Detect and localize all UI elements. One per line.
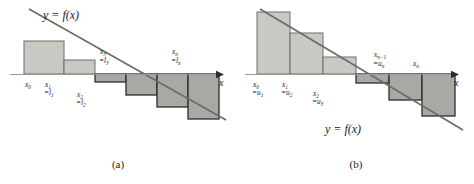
svg-text:=l1: =l1 <box>44 88 54 98</box>
tick-label-a-x3: x3 =l3 <box>99 47 109 66</box>
bar-a-3 <box>95 74 126 82</box>
bars-above-axis-a <box>24 41 95 74</box>
svg-text:=un: =un <box>373 59 385 69</box>
svg-text:=u3: =u3 <box>312 97 324 107</box>
bar-b-3 <box>323 57 356 74</box>
bar-b-2 <box>290 33 323 74</box>
bar-b-6 <box>422 74 455 116</box>
tick-label-a-x2: x2 =l2 <box>76 90 86 108</box>
function-label-a: y = f(x) <box>42 8 79 22</box>
bar-a-4 <box>126 74 157 95</box>
panel-b: y = f(x) x x0 =u1 x1 =u2 <box>237 0 474 160</box>
tick-label-b-xn: xn <box>412 59 419 69</box>
bar-a-1 <box>24 41 64 74</box>
panel-a: y = f(x) x x0 x1 =l1 <box>0 0 237 160</box>
svg-text:=l3: =l3 <box>99 56 109 66</box>
tick-label-b-x1: x1 =u2 <box>281 80 293 98</box>
bar-a-2 <box>64 60 95 74</box>
axis-label-a: x <box>218 77 224 88</box>
svg-text:=u1: =u1 <box>252 88 264 98</box>
svg-text:=u2: =u2 <box>281 88 293 98</box>
tick-label-a-x0: x0 <box>24 80 31 90</box>
function-label-b: y = f(x) <box>324 122 361 136</box>
bars-above-axis-b <box>257 12 356 74</box>
svg-text:x0: x0 <box>24 80 31 90</box>
svg-text:=l2: =l2 <box>76 98 86 108</box>
svg-text:xn: xn <box>412 59 419 69</box>
riemann-sum-figure: y = f(x) x x0 x1 =l1 <box>0 0 474 184</box>
tick-label-b-xn-1: xn−1 =un <box>373 50 386 69</box>
axis-label-b: x <box>453 77 459 88</box>
caption-panel-a: (a) <box>88 158 148 170</box>
svg-text:=ln: =ln <box>171 56 181 66</box>
tick-label-a-xn: xn =ln <box>171 47 181 66</box>
tick-label-a-x1: x1 =l1 <box>44 80 54 98</box>
caption-panel-b: (b) <box>326 158 386 170</box>
bar-a-6 <box>188 74 219 119</box>
tick-label-b-x0: x0 =u1 <box>252 80 264 98</box>
tick-label-b-x2: x2 =u3 <box>312 89 324 107</box>
bar-b-1 <box>257 12 290 74</box>
